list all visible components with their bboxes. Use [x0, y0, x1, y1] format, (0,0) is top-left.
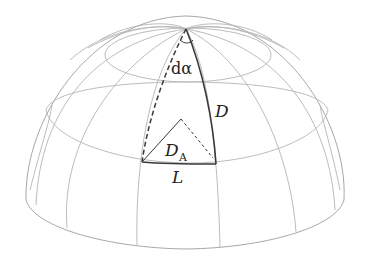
lune-edge-solid: [186, 29, 216, 164]
dome-outline: [26, 16, 344, 200]
label-dalpha: dα: [171, 59, 192, 78]
meridian: [36, 29, 186, 205]
hemisphere-diagram: dα D D A L: [0, 0, 369, 259]
label-L: L: [171, 167, 183, 187]
lune-edge-dashed: [142, 29, 186, 162]
meridian: [186, 29, 335, 210]
meridian: [186, 29, 296, 232]
meridian: [66, 29, 186, 228]
latitude-middle-front: [46, 110, 328, 163]
label-D: D: [214, 101, 229, 121]
base-rim-front: [26, 200, 344, 249]
base-rim-inner-right: [320, 105, 340, 190]
label-DA: D: [164, 140, 179, 160]
label-DA-subscript: A: [178, 151, 188, 164]
latitude-middle-back: [46, 82, 328, 110]
